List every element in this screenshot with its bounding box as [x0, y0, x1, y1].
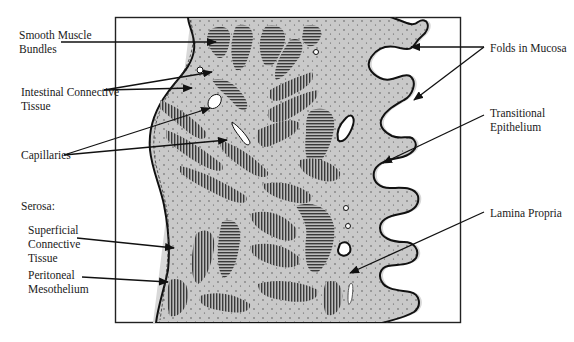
capillary: [346, 224, 351, 229]
label-serosa: Serosa:: [21, 199, 55, 213]
label-lamina-propria: Lamina Propria: [490, 206, 562, 220]
label-capillaries: Capillaries: [21, 148, 71, 162]
label-superficial-connective-tissue: Superficial Connective Tissue: [28, 223, 80, 265]
label-peritoneal-mesothelium: Peritoneal Mesothelium: [28, 268, 89, 296]
label-intestinal-connective-tissue: Intestinal Connective Tissue: [21, 85, 119, 113]
label-smooth-muscle-bundles: Smooth Muscle Bundles: [19, 28, 92, 56]
capillary: [338, 242, 350, 255]
label-folds-in-mucosa: Folds in Mucosa: [490, 41, 567, 55]
capillary: [314, 50, 319, 55]
label-transitional-epithelium: Transitional Epithelium: [490, 106, 545, 134]
capillary: [197, 67, 203, 73]
capillary: [344, 206, 349, 211]
